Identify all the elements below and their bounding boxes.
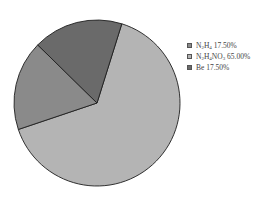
- legend-label-n2h4no3: N2H4NO3 65.00%: [196, 51, 250, 62]
- chart-legend: N2H4 17.50% N2H4NO3 65.00% Be 17.50%: [187, 40, 250, 73]
- legend-label-n2h4: N2H4 17.50%: [196, 40, 237, 51]
- pie-chart: [0, 0, 259, 199]
- legend-swatch-n2h4: [187, 43, 192, 48]
- legend-swatch-n2h4no3: [187, 54, 192, 59]
- legend-item-n2h4: N2H4 17.50%: [187, 40, 250, 51]
- pie-slices: [14, 20, 180, 186]
- legend-swatch-be: [187, 65, 192, 70]
- legend-item-n2h4no3: N2H4NO3 65.00%: [187, 51, 250, 62]
- legend-item-be: Be 17.50%: [187, 62, 250, 73]
- legend-label-be: Be 17.50%: [196, 62, 229, 73]
